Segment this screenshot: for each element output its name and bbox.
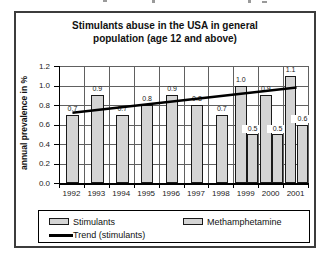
y-tick-label: 0.4 — [30, 140, 50, 149]
stimulants-swatch-icon — [49, 218, 69, 225]
legend: Stimulants Methamphetamine Trend (stimul… — [38, 210, 310, 243]
x-tick-mark — [308, 185, 309, 188]
x-tick-label: 2001 — [283, 189, 309, 198]
x-tick-label: 1998 — [208, 189, 234, 198]
cropped-text-fragment — [248, 0, 251, 3]
chart-title-line-2: population (age 12 and above) — [14, 32, 316, 45]
x-tick-mark — [109, 185, 110, 188]
x-tick-mark — [208, 185, 209, 188]
x-tick-label: 1997 — [183, 189, 209, 198]
y-tick-mark — [54, 144, 59, 145]
x-tick-label: 1992 — [58, 189, 84, 198]
cropped-text-fragment — [262, 1, 267, 3]
y-tick-label: 0.6 — [30, 120, 50, 129]
legend-label-methamphetamine: Methamphetamine — [207, 217, 282, 227]
x-tick-label: 1995 — [133, 189, 159, 198]
y-tick-mark — [54, 125, 59, 126]
trend-line-swatch-icon — [49, 234, 73, 237]
x-tick-mark — [184, 185, 185, 188]
cropped-text-fragment — [103, 0, 107, 2]
legend-label-trend: Trend (stimulants) — [73, 230, 145, 240]
y-tick-label: 0.8 — [30, 101, 50, 110]
x-tick-label: 1999 — [233, 189, 259, 198]
chart-title: Stimulants abuse in the USA in general p… — [14, 19, 316, 45]
legend-label-stimulants: Stimulants — [73, 217, 115, 227]
x-tick-mark — [84, 185, 85, 188]
x-tick-label: 1996 — [158, 189, 184, 198]
x-tick-mark — [258, 185, 259, 188]
x-tick-mark — [283, 185, 284, 188]
y-tick-label: 1.2 — [30, 62, 50, 71]
x-tick-mark — [134, 185, 135, 188]
y-tick-label: 0.2 — [30, 159, 50, 168]
y-tick-label: 1.0 — [30, 81, 50, 90]
plot-area: 0.70.90.70.80.90.80.71.00.50.90.51.10.6 — [59, 66, 309, 185]
y-tick-mark — [54, 105, 59, 106]
y-tick-mark — [54, 164, 59, 165]
y-tick-mark — [54, 183, 59, 184]
methamphetamine-swatch-icon — [183, 218, 203, 225]
x-tick-label: 1993 — [83, 189, 109, 198]
x-tick-label: 2000 — [258, 189, 284, 198]
x-tick-label: 1994 — [108, 189, 134, 198]
cropped-text-fragment — [152, 0, 155, 3]
x-tick-mark — [159, 185, 160, 188]
chart-screenshot: Stimulants abuse in the USA in general p… — [0, 0, 326, 260]
x-tick-mark — [233, 185, 234, 188]
trend-line — [60, 66, 309, 183]
chart-title-line-1: Stimulants abuse in the USA in general — [14, 19, 316, 32]
y-tick-label: 0.0 — [30, 179, 50, 188]
y-tick-mark — [54, 66, 59, 67]
y-tick-mark — [54, 86, 59, 87]
x-tick-mark — [59, 185, 60, 188]
